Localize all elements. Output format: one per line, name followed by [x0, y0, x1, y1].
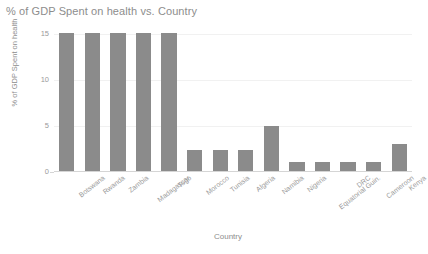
chart-title: % of GDP Spent on health vs. Country — [6, 4, 197, 18]
x-tick-label: Morocco — [204, 174, 230, 197]
x-axis-title: Country — [0, 232, 420, 241]
bar[interactable] — [238, 150, 253, 171]
bar[interactable] — [392, 144, 407, 171]
y-tick-label: 0 — [45, 168, 49, 176]
y-tick-label: 15 — [41, 30, 49, 38]
bar[interactable] — [59, 33, 74, 171]
bars-group — [54, 28, 412, 172]
bar[interactable] — [340, 162, 355, 171]
y-axis-title: % of GDP Spent on health — [10, 3, 19, 123]
bar[interactable] — [136, 33, 151, 171]
x-tick-label: Nigeria — [306, 174, 328, 194]
plot-area: 051015 — [54, 28, 412, 172]
y-tick-label: 5 — [45, 122, 49, 130]
bar[interactable] — [264, 126, 279, 171]
bar[interactable] — [187, 150, 202, 171]
y-tick-label: 10 — [41, 76, 49, 84]
bar[interactable] — [289, 162, 304, 171]
x-axis-ticks: BotswanaRwandaZambiaMadagascarTogoMorocc… — [54, 174, 412, 230]
x-tick-label: Zambia — [127, 174, 150, 195]
x-tick-label: Togo — [176, 174, 193, 190]
bar[interactable] — [85, 33, 100, 171]
bar[interactable] — [161, 33, 176, 171]
x-tick-label: Algeria — [254, 174, 276, 194]
x-tick-label: Botswana — [77, 174, 106, 199]
x-axis-line — [54, 171, 412, 172]
x-tick-label: Tunisia — [229, 174, 252, 194]
bar[interactable] — [315, 162, 330, 171]
bar[interactable] — [366, 162, 381, 171]
x-tick-label: Rwanda — [102, 174, 127, 196]
bar[interactable] — [110, 33, 125, 171]
x-tick-label: Namibia — [281, 174, 306, 196]
bar[interactable] — [213, 150, 228, 171]
y-tick-mark — [50, 172, 54, 173]
